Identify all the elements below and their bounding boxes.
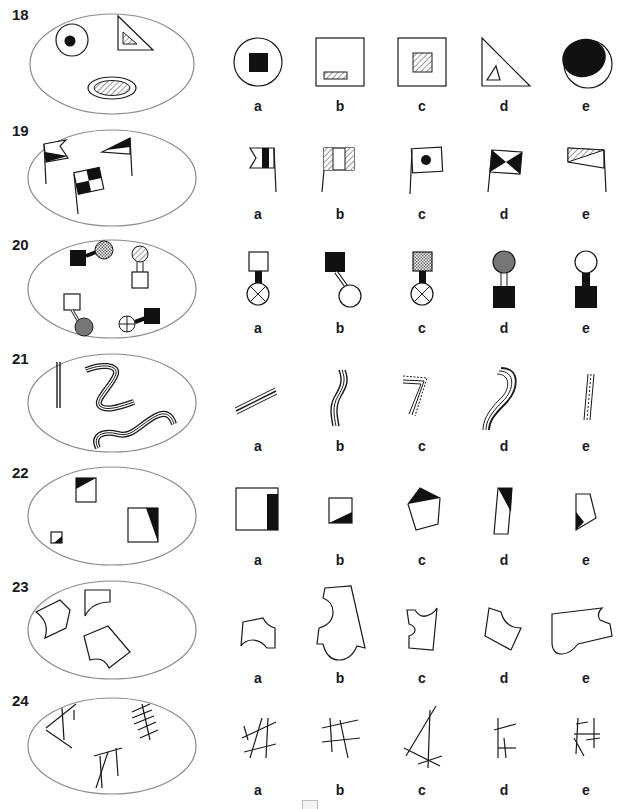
option-a[interactable]	[218, 32, 298, 92]
option-c[interactable]	[382, 584, 462, 660]
line-cluster-c-figure	[392, 704, 452, 772]
example-set-oval	[22, 236, 202, 342]
option-c[interactable]	[382, 482, 462, 542]
s-curve-triple-line-figure	[469, 364, 539, 434]
option-a[interactable]	[218, 482, 298, 542]
circle-to-black-square-figure	[556, 246, 616, 316]
problem-24: 24 a b c d e	[0, 692, 626, 802]
option-d[interactable]	[464, 364, 544, 434]
problem-22: 22 a b c d e	[0, 464, 626, 576]
shape-d-figure	[469, 584, 539, 660]
option-e[interactable]	[546, 32, 626, 92]
line-cluster-e-figure	[556, 708, 616, 768]
option-label-c: c	[382, 320, 462, 336]
circle-with-black-ellipse-figure	[556, 32, 616, 92]
triangle-with-triangle-figure	[474, 32, 534, 92]
option-a[interactable]	[218, 708, 298, 768]
square-to-crossed-circle-figure	[228, 246, 288, 316]
problem-19: 19 a b c d e	[0, 122, 626, 234]
option-label-c: c	[382, 552, 462, 568]
straight-triple-line-figure	[223, 364, 293, 434]
option-b[interactable]	[300, 482, 380, 542]
problem-21: 21 a b c d e	[0, 350, 626, 462]
option-c[interactable]	[382, 142, 462, 202]
option-b[interactable]	[300, 364, 380, 434]
option-label-b: b	[300, 320, 380, 336]
option-c[interactable]	[382, 32, 462, 92]
example-set-oval	[22, 124, 202, 232]
square-with-black-side-bar-figure	[228, 482, 288, 542]
option-d[interactable]	[464, 708, 544, 768]
option-label-b: b	[300, 670, 380, 686]
option-label-a: a	[218, 552, 298, 568]
shape-c-figure	[387, 584, 457, 660]
striped-hatched-flag-figure	[310, 142, 370, 202]
hourglass-flag-figure	[474, 142, 534, 202]
option-d[interactable]	[464, 32, 544, 92]
option-b[interactable]	[300, 32, 380, 92]
option-label-a: a	[218, 438, 298, 454]
option-d[interactable]	[464, 482, 544, 542]
line-cluster-b-figure	[310, 708, 370, 768]
option-label-c: c	[382, 438, 462, 454]
problem-18: 18 a b c d e	[0, 6, 626, 126]
option-d[interactable]	[464, 142, 544, 202]
gray-circle-to-black-square-figure	[474, 246, 534, 316]
option-label-e: e	[546, 438, 626, 454]
option-label-e: e	[546, 320, 626, 336]
example-set-oval	[22, 692, 202, 798]
option-label-c: c	[382, 206, 462, 222]
option-a[interactable]	[218, 246, 298, 316]
option-b[interactable]	[300, 142, 380, 202]
option-c[interactable]	[382, 246, 462, 316]
shape-b-figure	[305, 584, 375, 666]
diagonal-hatched-flag-figure	[556, 142, 616, 202]
option-label-e: e	[546, 670, 626, 686]
option-label-a: a	[218, 782, 298, 798]
option-label-a: a	[218, 320, 298, 336]
option-label-c: c	[382, 782, 462, 798]
option-label-d: d	[464, 206, 544, 222]
option-label-d: d	[464, 98, 544, 114]
option-label-d: d	[464, 438, 544, 454]
black-square-to-circle-figure	[310, 246, 370, 316]
square-with-hatched-square-figure	[392, 32, 452, 92]
option-a[interactable]	[218, 584, 298, 660]
tall-rectangle-black-triangle-figure	[474, 482, 534, 542]
option-label-b: b	[300, 552, 380, 568]
option-label-e: e	[546, 552, 626, 568]
option-d[interactable]	[464, 246, 544, 316]
option-label-d: d	[464, 320, 544, 336]
option-b[interactable]	[300, 584, 380, 666]
square-with-hatched-bar-figure	[310, 32, 370, 92]
pentagon-black-top-figure	[392, 482, 452, 542]
option-e[interactable]	[546, 708, 626, 768]
option-e[interactable]	[546, 364, 626, 434]
option-e[interactable]	[546, 482, 626, 542]
option-label-d: d	[464, 782, 544, 798]
option-d[interactable]	[464, 584, 544, 660]
option-b[interactable]	[300, 708, 380, 768]
option-a[interactable]	[218, 364, 298, 434]
example-set-oval	[22, 578, 202, 684]
option-e[interactable]	[546, 142, 626, 202]
line-cluster-a-figure	[228, 708, 288, 768]
option-c[interactable]	[382, 364, 462, 434]
option-a[interactable]	[218, 142, 298, 202]
page-edge-marker	[302, 800, 318, 809]
option-label-b: b	[300, 438, 380, 454]
dashed-center-line-figure	[551, 364, 621, 434]
swallowtail-flag-figure	[228, 142, 288, 202]
example-set-oval	[22, 350, 202, 456]
example-set-oval	[22, 464, 202, 570]
quadrilateral-black-corner-figure	[556, 482, 616, 542]
shape-a-figure	[223, 584, 293, 660]
option-label-a: a	[218, 98, 298, 114]
option-b[interactable]	[300, 246, 380, 316]
option-c[interactable]	[382, 704, 462, 772]
circle-with-black-square-figure	[228, 32, 288, 92]
option-label-e: e	[546, 98, 626, 114]
option-e[interactable]	[546, 246, 626, 316]
option-e[interactable]	[546, 584, 626, 660]
checkered-square-to-crossed-circle-figure	[392, 246, 452, 316]
